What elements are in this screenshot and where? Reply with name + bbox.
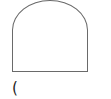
caption-text: (	[12, 80, 18, 97]
arch-shape	[12, 0, 88, 72]
